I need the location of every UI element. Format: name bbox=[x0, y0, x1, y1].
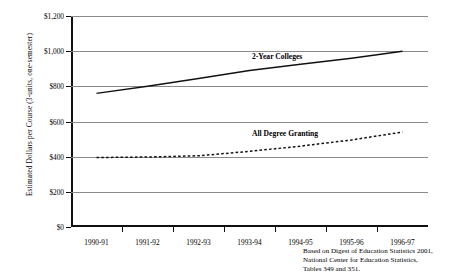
line-chart-figure: Estimated Dollars per Course (3-units, o… bbox=[0, 0, 459, 280]
y-tick-label: $400 bbox=[49, 152, 64, 161]
x-tick-mark bbox=[224, 227, 225, 232]
source-note-line-1: Based on Digest of Education Statistics … bbox=[303, 247, 433, 256]
x-tick-mark bbox=[173, 227, 174, 232]
x-tick-mark bbox=[326, 227, 327, 232]
x-tick-label: 1995-96 bbox=[339, 238, 363, 247]
series-line-all-degree-granting bbox=[97, 132, 403, 158]
x-tick-mark bbox=[275, 227, 276, 232]
y-tick-label: $800 bbox=[49, 82, 64, 91]
y-tick-label: $1,200 bbox=[44, 12, 64, 21]
source-note-line-3: Tables 349 and 351. bbox=[303, 265, 433, 274]
y-tick-label: $0 bbox=[57, 223, 64, 232]
series-lines bbox=[71, 16, 428, 227]
x-tick-mark bbox=[377, 227, 378, 232]
series-line-2-year-colleges bbox=[97, 51, 403, 93]
x-tick-label: 1990-91 bbox=[84, 238, 108, 247]
plot-area: $0$200$400$600$800$1,000$1,200 1990-9119… bbox=[71, 16, 428, 227]
y-tick-label: $200 bbox=[49, 187, 64, 196]
source-note: Based on Digest of Education Statistics … bbox=[303, 247, 433, 275]
series-label-all-degree-granting: All Degree Granting bbox=[252, 129, 318, 138]
x-tick-label: 1996-97 bbox=[390, 238, 414, 247]
x-tick-label: 1992-93 bbox=[186, 238, 210, 247]
source-note-line-2: National Center for Education Statistics… bbox=[303, 256, 433, 265]
y-tick-mark bbox=[66, 227, 71, 228]
y-tick-label: $600 bbox=[49, 117, 64, 126]
x-tick-label: 1994-95 bbox=[288, 238, 312, 247]
x-tick-mark bbox=[122, 227, 123, 232]
y-axis-title: Estimated Dollars per Course (3-units, o… bbox=[25, 15, 34, 215]
x-tick-label: 1993-94 bbox=[237, 238, 261, 247]
y-tick-label: $1,000 bbox=[44, 47, 64, 56]
series-label-2-year-colleges: 2-Year Colleges bbox=[252, 52, 302, 61]
x-tick-label: 1991-92 bbox=[135, 238, 159, 247]
